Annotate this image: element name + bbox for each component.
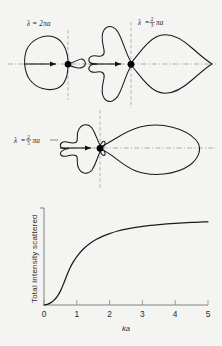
- chart-xtick-3: 3: [140, 309, 145, 319]
- diagram-3-label-equals: =: [21, 137, 25, 145]
- chart-xtick-4: 4: [173, 309, 178, 319]
- diagram-3-fraction-denominator: 5: [27, 140, 30, 146]
- diagram-2-label-prefix: λ: [137, 19, 141, 27]
- diagram-2-fraction-denominator: 3: [151, 22, 154, 28]
- diagram-2-label: λ = 2 3 πa: [137, 16, 164, 28]
- diagram-3-label-suffix: πa: [33, 137, 41, 145]
- chart-xtick-1: 1: [74, 309, 79, 319]
- chart-xtick-2: 2: [107, 309, 112, 319]
- diagram-3-label-prefix: λ: [13, 137, 17, 145]
- diagram-1-scatterer-dot: [65, 61, 72, 68]
- diagram-1-label-text: λ = 2πa: [26, 20, 51, 28]
- diagram-2-fraction-numerator: 2: [151, 16, 154, 22]
- figure-canvas: λ = 2πa λ = 2 3 πa: [0, 0, 222, 346]
- diagram-1-label: λ = 2πa: [26, 20, 51, 28]
- diagram-2-label-suffix: πa: [156, 19, 164, 27]
- diagram-2-scatterer-dot: [128, 61, 135, 68]
- diagram-3-scatterer-dot: [97, 145, 104, 152]
- chart-xtick-0: 0: [42, 309, 47, 319]
- chart-y-axis-label: Total intensity scattered: [30, 214, 39, 303]
- chart-xtick-5: 5: [206, 309, 211, 319]
- diagram-3-fraction-numerator: 2: [27, 134, 30, 140]
- chart-x-axis-label: ka: [122, 324, 130, 333]
- scattering-figure: λ = 2πa λ = 2 3 πa: [0, 0, 222, 346]
- diagram-2-label-equals: =: [145, 19, 149, 27]
